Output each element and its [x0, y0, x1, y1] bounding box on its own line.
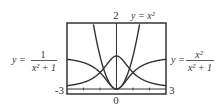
x-right-label: 3: [169, 84, 175, 96]
left-curve-num: 1: [41, 49, 46, 60]
left-curve-lhs: y =: [11, 54, 26, 65]
right-curve-num: x²: [194, 49, 203, 60]
chart: 2 0 -3 3 y = x² y = 1 x² + 1 y = x² x² +…: [0, 0, 218, 107]
y-top-label: 2: [113, 9, 119, 21]
x-left-label: -3: [55, 84, 65, 96]
x-center-label: 0: [113, 94, 119, 106]
plot-area: [67, 23, 166, 91]
right-curve-lhs: y =: [170, 54, 185, 65]
left-curve-den: x² + 1: [31, 62, 56, 73]
right-curve-den: x² + 1: [187, 62, 212, 73]
top-curve-label: y = x²: [130, 10, 156, 21]
